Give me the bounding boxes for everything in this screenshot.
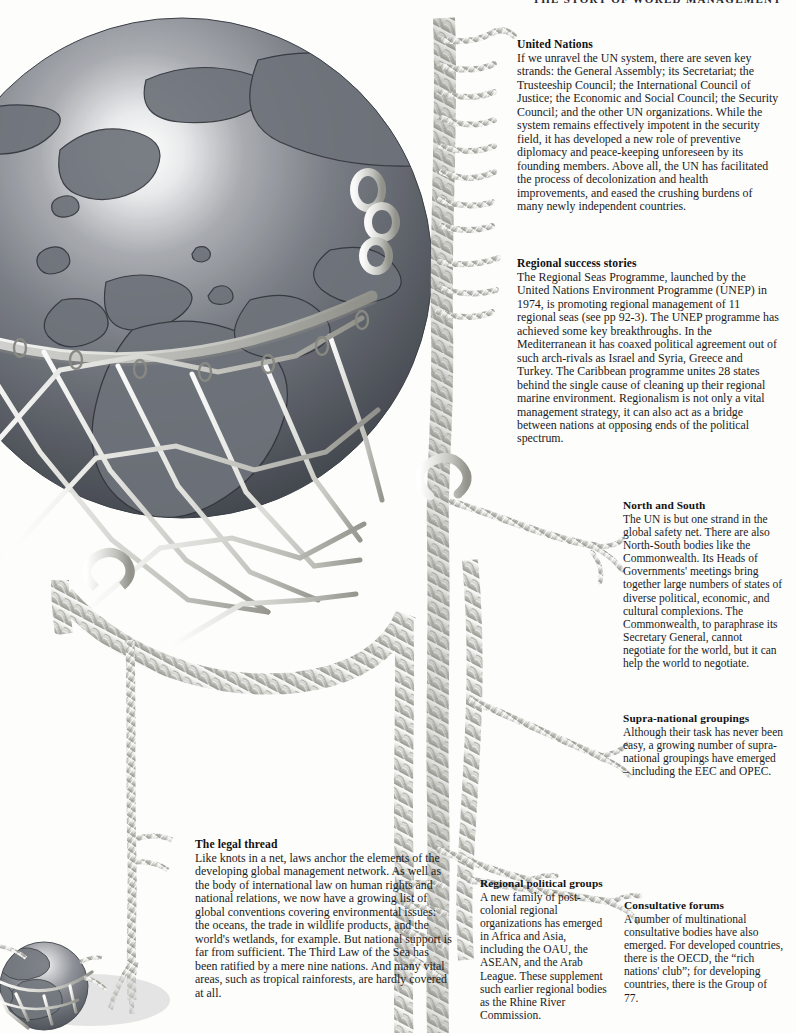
running-header-text: THE STORY OF WORLD MANAGEMENT [0, 0, 796, 5]
small-globe [0, 942, 170, 1030]
caption-heading: Consultative forums [624, 899, 784, 912]
caption-body: If we unravel the UN system, there are s… [517, 52, 779, 213]
main-globe [0, 18, 450, 518]
caption-block-consultative-forums: Consultative forums A number of multinat… [624, 899, 784, 1005]
caption-heading: Regional political groups [480, 877, 612, 890]
caption-heading: United Nations [517, 38, 779, 51]
caption-heading: North and South [623, 499, 783, 512]
caption-block-the-legal-thread: The legal thread Like knots in a net, la… [195, 838, 453, 1000]
caption-body: Although their task has never been easy,… [623, 726, 783, 778]
caption-block-north-and-south: North and South The UN is but one strand… [623, 499, 783, 670]
caption-body: A new family of post-colonial regional o… [480, 891, 612, 1022]
safety-net [0, 172, 396, 648]
caption-body: The Regional Seas Programme, launched by… [517, 271, 779, 446]
caption-body: The UN is but one strand in the global s… [623, 513, 783, 670]
caption-heading: The legal thread [195, 838, 453, 851]
caption-block-regional-success-stories: Regional success stories The Regional Se… [517, 257, 779, 446]
caption-block-regional-political-groups: Regional political groups A new family o… [480, 877, 612, 1022]
caption-heading: Supra-national groupings [623, 712, 783, 725]
caption-block-supra-national-groupings: Supra-national groupings Although their … [623, 712, 783, 778]
caption-heading: Regional success stories [517, 257, 779, 270]
running-header: THE STORY OF WORLD MANAGEMENT [0, 0, 796, 5]
caption-body: Like knots in a net, laws anchor the ele… [195, 852, 453, 1000]
caption-block-united-nations: United Nations If we unravel the UN syst… [517, 38, 779, 213]
caption-body: A number of multinational consultative b… [624, 913, 784, 1005]
page-canvas: THE STORY OF WORLD MANAGEMENT [0, 0, 796, 1033]
